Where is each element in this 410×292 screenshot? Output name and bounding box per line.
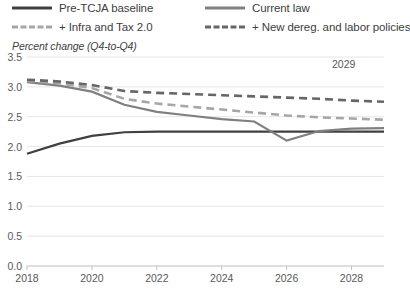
x-tick-label: 2024 xyxy=(210,272,233,284)
x-tick-label: 2020 xyxy=(80,272,103,284)
x-tick-label: 2026 xyxy=(275,272,298,284)
series-line-pre-tcja-baseline xyxy=(27,132,384,154)
y-tick-label: 0.5 xyxy=(7,230,22,242)
y-tick-label: 1.0 xyxy=(7,200,22,212)
x-tick-label: 2028 xyxy=(340,272,363,284)
x-tick-label: 2022 xyxy=(145,272,168,284)
x-tick-label: 2018 xyxy=(15,272,38,284)
y-tick-label: 3.5 xyxy=(7,51,22,63)
y-tick-label: 0.0 xyxy=(7,260,22,272)
axis-lines xyxy=(27,266,384,270)
y-tick-label: 2.5 xyxy=(7,111,22,123)
y-tick-label: 3.0 xyxy=(7,81,22,93)
y-tick-label: 2.0 xyxy=(7,141,22,153)
y-tick-label: 1.5 xyxy=(7,170,22,182)
series-line-new-dereg-and-labor-policies xyxy=(27,80,384,102)
